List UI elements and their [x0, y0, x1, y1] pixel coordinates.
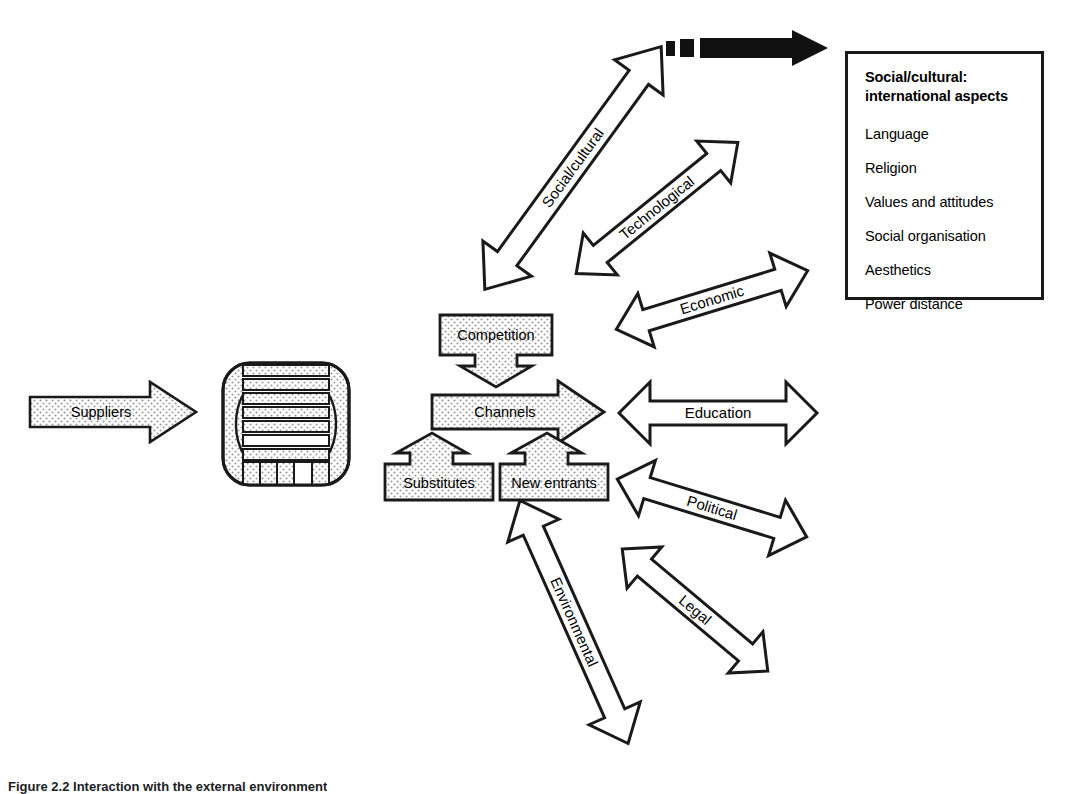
arrow-environmental: Environmental: [494, 489, 653, 755]
legend-title-line2: international aspects: [865, 87, 1041, 106]
channels-arrow: Channels: [432, 381, 604, 443]
organisation-symbol: [223, 363, 349, 486]
legend-item-aesthetics: Aesthetics: [865, 262, 1041, 279]
legend-box: Social/cultural: international aspects L…: [845, 51, 1044, 300]
legend-item-language: Language: [865, 126, 1041, 143]
arrow-technological-label: Technological: [616, 172, 697, 242]
arrow-legal: Legal: [605, 528, 785, 691]
substitutes-box: Substitutes: [385, 433, 493, 500]
arrow-social-cultural: Social/cultural: [461, 29, 686, 307]
legend-item-power-distance: Power distance: [865, 296, 1041, 313]
legend-item-social-organisation: Social organisation: [865, 228, 1041, 245]
substitutes-label: Substitutes: [403, 475, 475, 491]
legend-item-values-and-attitudes: Values and attitudes: [865, 194, 1041, 211]
legend-title-line1: Social/cultural:: [865, 68, 1041, 87]
new-entrants-box: New entrants: [500, 433, 608, 500]
arrow-education-label: Education: [685, 404, 752, 421]
arrow-social-cultural-label: Social/cultural: [538, 125, 607, 211]
channels-label: Channels: [474, 404, 535, 420]
arrow-education: Education: [619, 382, 817, 444]
legend-pointer-icon: [666, 30, 828, 66]
competition-box: Competition: [440, 315, 552, 387]
legend-item-religion: Religion: [865, 160, 1041, 177]
competition-label: Competition: [457, 327, 534, 343]
arrow-environmental-label: Environmental: [547, 575, 602, 670]
figure-caption: Figure 2.2 Interaction with the external…: [8, 779, 327, 794]
suppliers-label: Suppliers: [71, 404, 131, 420]
figure-canvas: Suppliers: [0, 0, 1075, 794]
new-entrants-label: New entrants: [511, 475, 596, 491]
arrow-economic: Economic: [608, 244, 816, 356]
suppliers-arrow: Suppliers: [30, 382, 196, 442]
